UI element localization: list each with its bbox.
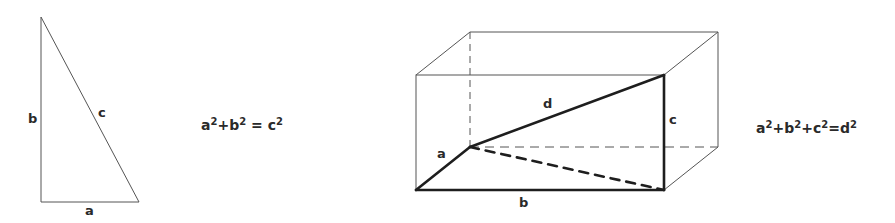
eq-exponent: 2 xyxy=(850,119,857,130)
box-edge-top-right xyxy=(664,32,718,75)
box-front-face xyxy=(416,75,664,190)
eq-term: +b xyxy=(772,120,794,136)
box-label-b: b xyxy=(519,196,528,209)
diagram-canvas xyxy=(0,0,895,223)
eq-exponent: 2 xyxy=(276,116,283,127)
rectangular-box xyxy=(416,32,718,190)
right-triangle xyxy=(41,17,139,202)
triangle-label-c: c xyxy=(98,106,106,119)
eq-term: +c xyxy=(801,120,821,136)
box-label-a: a xyxy=(437,147,446,160)
box-diagonal-d xyxy=(470,75,664,147)
eq-term: +b xyxy=(217,117,239,133)
box-label-d: d xyxy=(543,97,552,110)
pythagorean-equation: a2+b2 = c2 xyxy=(201,117,283,132)
triangle-label-b: b xyxy=(28,112,37,125)
box-edge-top-left xyxy=(416,32,470,75)
box-label-c: c xyxy=(669,113,677,126)
box-base-diagonal-dashed xyxy=(470,147,664,190)
box-edge-bottom-right xyxy=(664,147,718,190)
space-diagonal-equation: a2+b2+c2=d2 xyxy=(756,120,857,135)
triangle-label-a: a xyxy=(85,204,94,217)
eq-term: = c xyxy=(246,117,276,133)
triangle-hypotenuse-c xyxy=(41,17,139,202)
eq-term: =d xyxy=(828,120,850,136)
